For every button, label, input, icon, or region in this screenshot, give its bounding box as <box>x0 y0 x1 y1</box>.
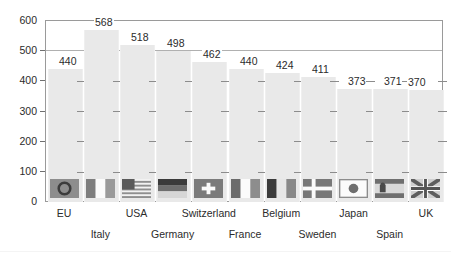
bar-chart: 600 500 400 300 200 100 0 44056851849846… <box>0 0 451 258</box>
x-label-uk: UK <box>381 208 451 219</box>
bars-layer-last <box>0 0 451 258</box>
footer-divider <box>0 251 451 252</box>
x-label-spain: Spain <box>345 229 435 240</box>
